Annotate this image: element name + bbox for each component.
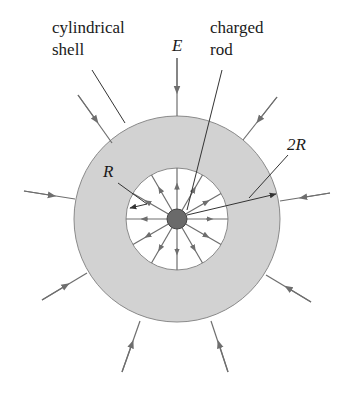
charged-rod bbox=[167, 209, 187, 229]
outer-radius-label: 2R bbox=[287, 135, 306, 155]
field-label: E bbox=[172, 36, 182, 56]
rod-label-line2: rod bbox=[210, 40, 233, 60]
rod-label: charged bbox=[210, 18, 264, 38]
inner-radius-label: R bbox=[103, 162, 113, 182]
shell-label-line2: shell bbox=[52, 40, 84, 60]
shell-label: cylindrical bbox=[52, 18, 125, 38]
